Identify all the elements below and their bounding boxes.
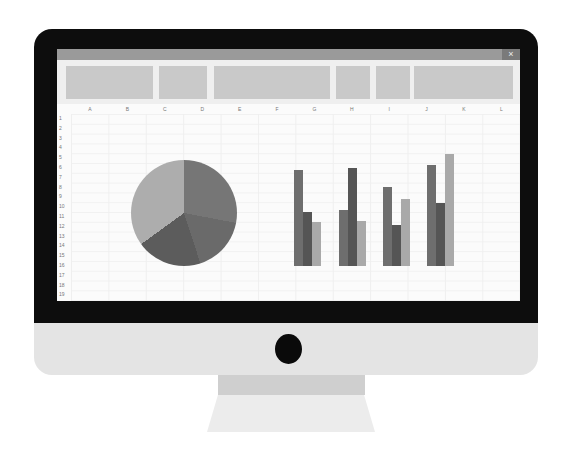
bar-2-3[interactable] <box>357 221 366 266</box>
bar-4-2[interactable] <box>436 203 445 266</box>
monitor-stand-neck <box>218 375 365 395</box>
bar-1-1[interactable] <box>294 170 303 266</box>
bar-3-3[interactable] <box>401 199 410 266</box>
monitor-logo-dot <box>275 334 302 364</box>
monitor-stand-base <box>207 395 375 432</box>
bar-4-1[interactable] <box>427 165 436 266</box>
spreadsheet-window: × ABCDEFGHIJKL 1234567891011121314151617… <box>57 49 520 301</box>
bar-chart[interactable] <box>57 49 520 301</box>
bar-3-1[interactable] <box>383 187 392 266</box>
bar-3-2[interactable] <box>392 225 401 266</box>
bar-4-3[interactable] <box>445 154 454 266</box>
bar-1-2[interactable] <box>303 212 312 266</box>
bar-1-3[interactable] <box>312 222 321 266</box>
bar-2-2[interactable] <box>348 168 357 266</box>
bar-2-1[interactable] <box>339 210 348 266</box>
